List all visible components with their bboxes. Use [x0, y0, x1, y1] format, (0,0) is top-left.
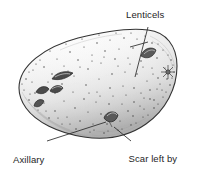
label-axillary-buds-line1: Axillary	[13, 154, 44, 165]
tuber-body	[19, 29, 177, 138]
eye-right-edge	[161, 65, 175, 79]
label-scar-left-by-scale-leaf: Scar left by scale leaf	[123, 141, 177, 175]
label-scar-line1: Scar left by	[128, 153, 177, 164]
label-lenticels: Lenticels	[126, 9, 164, 21]
label-axillary-buds: Axillary buds	[8, 142, 44, 175]
